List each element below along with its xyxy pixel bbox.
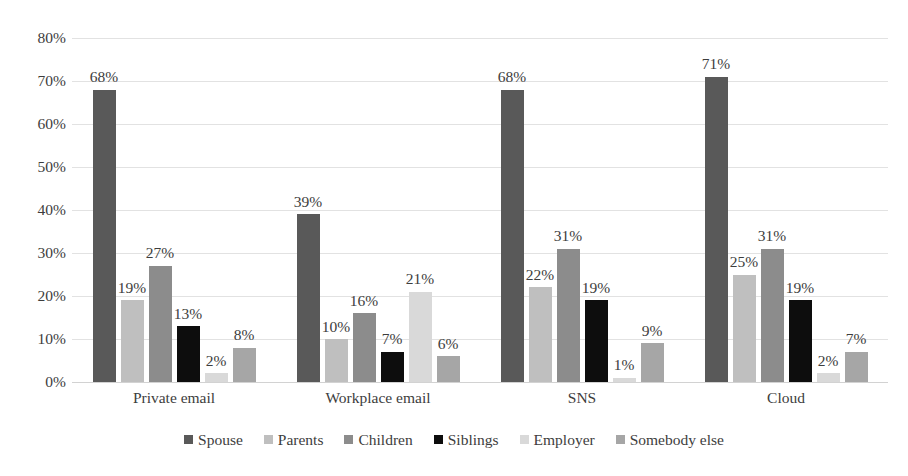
bar-siblings[interactable]: 19% bbox=[585, 38, 608, 382]
bar-parents[interactable]: 10% bbox=[325, 38, 348, 382]
bar-somebody-else[interactable]: 6% bbox=[437, 38, 460, 382]
bar-rect[interactable] bbox=[529, 287, 552, 382]
legend-swatch-icon bbox=[520, 435, 529, 444]
bar-children[interactable]: 31% bbox=[557, 38, 580, 382]
bar-parents[interactable]: 25% bbox=[733, 38, 756, 382]
bar-siblings[interactable]: 7% bbox=[381, 38, 404, 382]
y-axis-tick-label: 70% bbox=[2, 73, 66, 89]
legend-swatch-icon bbox=[264, 435, 273, 444]
bar-rect[interactable] bbox=[501, 90, 524, 382]
bar-rect[interactable] bbox=[557, 249, 580, 382]
bar-value-label: 39% bbox=[294, 194, 322, 210]
legend-item-parents[interactable]: Parents bbox=[264, 432, 324, 448]
bar-value-label: 2% bbox=[818, 353, 839, 369]
bar-parents[interactable]: 19% bbox=[121, 38, 144, 382]
bar-parents[interactable]: 22% bbox=[529, 38, 552, 382]
bar-somebody-else[interactable]: 9% bbox=[641, 38, 664, 382]
bar-value-label: 19% bbox=[118, 280, 146, 296]
bar-rect[interactable] bbox=[297, 214, 320, 382]
bar-rect[interactable] bbox=[325, 339, 348, 382]
y-axis-tick-label: 10% bbox=[2, 331, 66, 347]
y-axis: 80%70%60%50%40%30%20%10%0% bbox=[0, 38, 66, 382]
bar-rect[interactable] bbox=[177, 326, 200, 382]
legend-item-label: Spouse bbox=[198, 432, 243, 448]
bar-value-label: 1% bbox=[614, 357, 635, 373]
bar-value-label: 31% bbox=[554, 228, 582, 244]
bar-children[interactable]: 27% bbox=[149, 38, 172, 382]
bar-value-label: 16% bbox=[350, 293, 378, 309]
bar-rect[interactable] bbox=[641, 343, 664, 382]
legend-item-somebody-else[interactable]: Somebody else bbox=[616, 432, 724, 448]
bar-siblings[interactable]: 13% bbox=[177, 38, 200, 382]
bar-value-label: 13% bbox=[174, 306, 202, 322]
bar-rect[interactable] bbox=[353, 313, 376, 382]
bar-group: 39%10%16%7%21%6% bbox=[297, 38, 460, 382]
bar-value-label: 8% bbox=[234, 327, 255, 343]
bar-children[interactable]: 16% bbox=[353, 38, 376, 382]
legend-item-siblings[interactable]: Siblings bbox=[434, 432, 499, 448]
bar-group: 68%22%31%19%1%9% bbox=[501, 38, 664, 382]
bar-rect[interactable] bbox=[381, 352, 404, 382]
bar-rect[interactable] bbox=[817, 373, 840, 382]
bar-rect[interactable] bbox=[613, 378, 636, 382]
bar-rect[interactable] bbox=[845, 352, 868, 382]
bar-spouse[interactable]: 68% bbox=[501, 38, 524, 382]
legend-item-label: Parents bbox=[278, 432, 324, 448]
x-axis-category-label: Private email bbox=[72, 390, 276, 406]
bar-value-label: 19% bbox=[786, 280, 814, 296]
bar-value-label: 10% bbox=[322, 319, 350, 335]
bar-group: 71%25%31%19%2%7% bbox=[705, 38, 868, 382]
bar-rect[interactable] bbox=[437, 356, 460, 382]
bar-value-label: 31% bbox=[758, 228, 786, 244]
y-axis-tick-label: 80% bbox=[2, 30, 66, 46]
bar-rect[interactable] bbox=[705, 77, 728, 382]
bar-value-label: 2% bbox=[206, 353, 227, 369]
bar-value-label: 68% bbox=[498, 69, 526, 85]
bar-rect[interactable] bbox=[409, 292, 432, 382]
bar-value-label: 68% bbox=[90, 69, 118, 85]
bar-spouse[interactable]: 71% bbox=[705, 38, 728, 382]
bar-value-label: 25% bbox=[730, 254, 758, 270]
bar-rect[interactable] bbox=[149, 266, 172, 382]
bar-somebody-else[interactable]: 7% bbox=[845, 38, 868, 382]
x-axis-category-label: SNS bbox=[480, 390, 684, 406]
y-axis-tick-label: 60% bbox=[2, 116, 66, 132]
legend-swatch-icon bbox=[434, 435, 443, 444]
legend-item-label: Somebody else bbox=[630, 432, 724, 448]
bar-spouse[interactable]: 68% bbox=[93, 38, 116, 382]
legend-swatch-icon bbox=[344, 435, 353, 444]
legend-item-employer[interactable]: Employer bbox=[520, 432, 595, 448]
legend-item-label: Children bbox=[358, 432, 412, 448]
bar-value-label: 19% bbox=[582, 280, 610, 296]
bar-value-label: 71% bbox=[702, 56, 730, 72]
bar-rect[interactable] bbox=[93, 90, 116, 382]
bar-rect[interactable] bbox=[585, 300, 608, 382]
y-axis-tick-label: 40% bbox=[2, 202, 66, 218]
legend-item-label: Employer bbox=[534, 432, 595, 448]
bar-rect[interactable] bbox=[205, 373, 228, 382]
bar-value-label: 6% bbox=[438, 336, 459, 352]
bar-somebody-else[interactable]: 8% bbox=[233, 38, 256, 382]
bar-children[interactable]: 31% bbox=[761, 38, 784, 382]
bar-rect[interactable] bbox=[733, 275, 756, 383]
bar-rect[interactable] bbox=[121, 300, 144, 382]
x-axis-category-label: Cloud bbox=[684, 390, 888, 406]
bar-value-label: 21% bbox=[406, 271, 434, 287]
legend-swatch-icon bbox=[616, 435, 625, 444]
bar-employer[interactable]: 2% bbox=[205, 38, 228, 382]
bar-rect[interactable] bbox=[233, 348, 256, 382]
bar-rect[interactable] bbox=[761, 249, 784, 382]
gridline-0 bbox=[72, 382, 888, 383]
bar-group: 68%19%27%13%2%8% bbox=[93, 38, 256, 382]
legend-item-spouse[interactable]: Spouse bbox=[184, 432, 243, 448]
bar-siblings[interactable]: 19% bbox=[789, 38, 812, 382]
legend-item-children[interactable]: Children bbox=[344, 432, 412, 448]
bar-spouse[interactable]: 39% bbox=[297, 38, 320, 382]
bar-employer[interactable]: 1% bbox=[613, 38, 636, 382]
bar-employer[interactable]: 21% bbox=[409, 38, 432, 382]
y-axis-tick-label: 50% bbox=[2, 159, 66, 175]
bar-value-label: 22% bbox=[526, 267, 554, 283]
bar-value-label: 7% bbox=[846, 331, 867, 347]
bar-rect[interactable] bbox=[789, 300, 812, 382]
bar-employer[interactable]: 2% bbox=[817, 38, 840, 382]
